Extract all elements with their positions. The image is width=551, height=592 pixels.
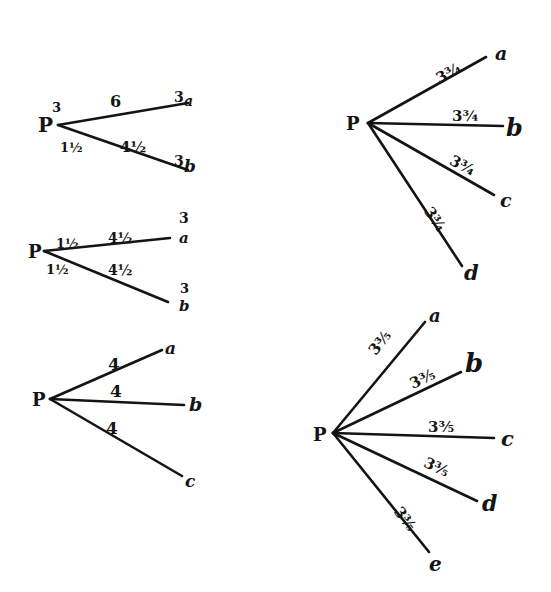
d2-inner-b: 1½ bbox=[46, 262, 69, 277]
diagram-4: P 3¾ a 3¾ b 3¾ c 3¾ d bbox=[346, 42, 523, 285]
diagram-1: P 3 6 3 a 1½ 4½ 3 b bbox=[38, 89, 196, 176]
d5-origin-label: P bbox=[313, 424, 327, 445]
d2-inner-a: 1½ bbox=[56, 236, 79, 251]
d1-end-label-b: 3 bbox=[174, 153, 184, 169]
d3-ray-a bbox=[50, 350, 162, 399]
d1-point-a: a bbox=[184, 93, 193, 109]
d2-end-label-b: 3 bbox=[180, 281, 189, 296]
ray-diagrams-figure: P 3 6 3 a 1½ 4½ 3 b P 1½ 4½ 3 a 1½ 4½ 3 … bbox=[0, 0, 551, 592]
d5-weight-a: 3⅗ bbox=[365, 327, 395, 359]
d3-weight-a: 4 bbox=[108, 354, 120, 374]
d5-ray-d bbox=[333, 433, 477, 501]
d2-origin-label: P bbox=[28, 241, 42, 262]
d4-point-d: d bbox=[464, 260, 479, 285]
diagram-2: P 1½ 4½ 3 a 1½ 4½ 3 b bbox=[28, 210, 190, 315]
diagram-3: P 4 a 4 b 4 c bbox=[32, 338, 202, 491]
d4-point-c: c bbox=[500, 189, 512, 211]
d1-weight-b: 4½ bbox=[120, 138, 146, 156]
d3-origin-label: P bbox=[32, 389, 46, 410]
d4-point-b: b bbox=[506, 113, 523, 142]
d4-ray-d bbox=[368, 123, 462, 266]
d4-origin-label: P bbox=[346, 113, 360, 134]
d2-end-label-a: 3 bbox=[179, 210, 189, 226]
diagram-5: P 3⅗ a 3⅗ b 3⅗ c 3⅗ d 3⅗ e bbox=[313, 305, 514, 576]
d5-point-a: a bbox=[429, 305, 441, 326]
d4-ray-b bbox=[368, 123, 503, 126]
d5-point-d: d bbox=[482, 490, 497, 516]
d4-weight-c: 3¾ bbox=[447, 151, 479, 179]
d1-ray-a bbox=[58, 103, 188, 125]
d1-origin-superscript: 3 bbox=[52, 100, 61, 115]
d5-weight-b: 3⅗ bbox=[407, 365, 438, 392]
d1-weight-a: 6 bbox=[110, 92, 121, 111]
d3-point-c: c bbox=[185, 471, 196, 491]
d5-ray-c bbox=[333, 433, 494, 438]
d4-ray-c bbox=[368, 123, 494, 195]
d5-point-e: e bbox=[429, 552, 442, 576]
d1-origin-label: P bbox=[38, 113, 53, 137]
d1-end-label-a: 3 bbox=[174, 89, 184, 105]
d2-weight-b: 4½ bbox=[108, 262, 132, 278]
d5-weight-c: 3⅗ bbox=[428, 418, 454, 436]
d3-weight-b: 4 bbox=[110, 381, 122, 401]
d5-point-c: c bbox=[501, 426, 514, 451]
d2-point-b: b bbox=[179, 297, 190, 315]
d5-point-b: b bbox=[465, 348, 483, 378]
d1-point-b: b bbox=[184, 156, 196, 176]
d5-ray-e bbox=[333, 433, 429, 552]
d4-point-a: a bbox=[495, 42, 507, 64]
d4-weight-b: 3¾ bbox=[452, 107, 478, 125]
d2-weight-a: 4½ bbox=[108, 230, 132, 246]
d3-point-b: b bbox=[189, 393, 202, 415]
d2-point-a: a bbox=[179, 229, 189, 247]
d1-inner-b: 1½ bbox=[60, 140, 83, 155]
d3-point-a: a bbox=[165, 338, 176, 358]
d3-weight-c: 4 bbox=[106, 418, 118, 438]
